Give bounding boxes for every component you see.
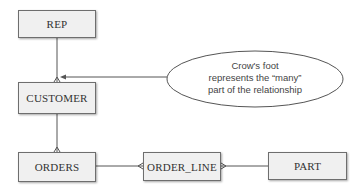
- entity-label: CUSTOMER: [26, 92, 87, 104]
- entity-order-line: ORDER_LINE: [143, 152, 221, 181]
- entity-label: ORDERS: [35, 161, 80, 173]
- callout-text: Crow's foot represents the “many” part o…: [180, 60, 330, 96]
- callout-line-2: represents the “many”: [180, 72, 330, 84]
- arrowhead-icon: [60, 75, 66, 80]
- entity-label: PART: [294, 160, 321, 172]
- entity-customer: CUSTOMER: [18, 82, 96, 114]
- er-diagram: REP CUSTOMER ORDERS ORDER_LINE PART Crow…: [0, 0, 363, 190]
- entity-label: REP: [47, 18, 68, 30]
- entity-label: ORDER_LINE: [147, 161, 217, 173]
- callout-line-1: Crow's foot: [180, 60, 330, 72]
- callout-line-3: part of the relationship: [180, 84, 330, 96]
- entity-rep: REP: [18, 10, 96, 38]
- entity-orders: ORDERS: [18, 152, 96, 182]
- entity-part: PART: [268, 152, 347, 180]
